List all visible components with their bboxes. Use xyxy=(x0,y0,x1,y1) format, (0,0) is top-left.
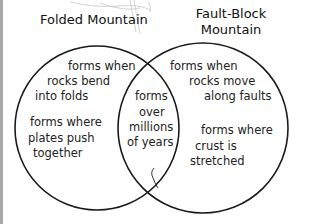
shared-line-4: of years xyxy=(127,135,173,149)
left-fact-2-line-1: forms where xyxy=(30,115,102,129)
fault-block-title-line-1: Fault-Block xyxy=(176,6,286,22)
fault-block-title-line-2: Mountain xyxy=(176,22,286,38)
right-fact-2-line-3: stretched xyxy=(190,154,245,168)
left-fact-1-line-2: rocks bend xyxy=(47,74,110,88)
shared-line-1: forms xyxy=(135,89,168,103)
shared-line-3: millions xyxy=(129,120,173,134)
folded-mountain-title: Folded Mountain xyxy=(40,12,148,28)
shared-line-2: over xyxy=(139,105,165,119)
left-fact-2-line-3: together xyxy=(33,146,83,160)
right-fact-1-line-1: forms when xyxy=(170,59,238,73)
fault-block-mountain-title: Fault-Block Mountain xyxy=(176,6,286,38)
right-fact-2-line-1: forms where xyxy=(201,123,273,137)
left-fact-2-line-2: plates push xyxy=(28,131,95,145)
right-fact-1-line-3: along faults xyxy=(204,89,272,103)
right-fact-1-line-2: rocks move xyxy=(189,74,255,88)
left-fact-1-line-1: forms when xyxy=(68,59,136,73)
right-fact-2-line-2: crust is xyxy=(195,139,237,153)
left-fact-1-line-3: into folds xyxy=(35,89,88,103)
